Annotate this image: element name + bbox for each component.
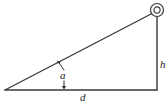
height-length-label: h (160, 59, 166, 70)
figure-canvas: a d h (0, 0, 168, 106)
hypotenuse-line (5, 13, 153, 90)
base-length-label: d (80, 92, 86, 103)
angle-label: a (60, 70, 66, 81)
pulley-hub-circle (154, 7, 160, 13)
angle-arrow-down (62, 81, 66, 90)
